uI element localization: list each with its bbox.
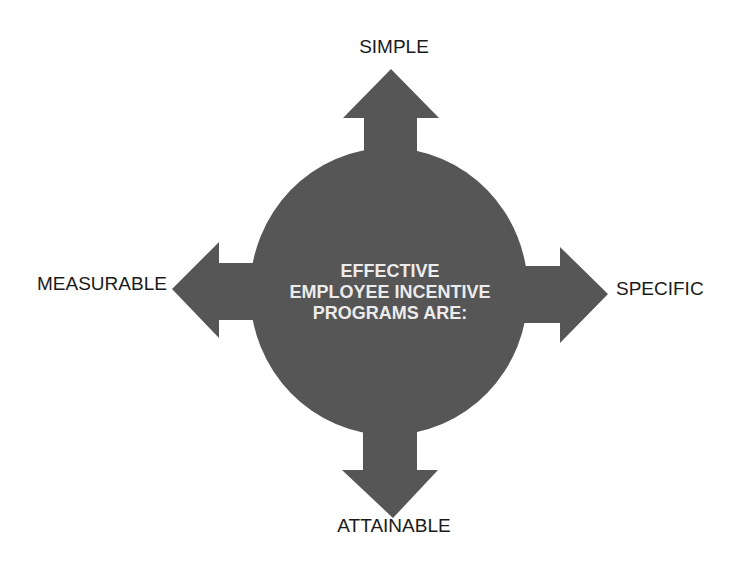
center-heading-line-2: EMPLOYEE INCENTIVE <box>289 282 490 303</box>
center-heading-line-3: PROGRAMS ARE: <box>289 303 490 324</box>
arrow-left-icon <box>172 242 260 338</box>
arrow-up-icon <box>343 69 439 160</box>
arrow-right-icon <box>515 247 608 343</box>
label-measurable: MEASURABLE <box>37 274 167 293</box>
label-attainable: ATTAINABLE <box>337 516 450 535</box>
center-heading: EFFECTIVE EMPLOYEE INCENTIVE PROGRAMS AR… <box>289 261 490 324</box>
arrow-down-icon <box>342 425 438 518</box>
label-specific: SPECIFIC <box>616 279 704 298</box>
label-simple: SIMPLE <box>359 37 429 56</box>
center-heading-line-1: EFFECTIVE <box>289 261 490 282</box>
